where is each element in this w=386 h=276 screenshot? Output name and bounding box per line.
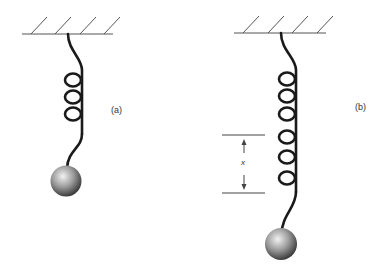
displacement-label: x: [241, 158, 245, 167]
spring-a: [65, 34, 82, 168]
panel-label-a: (a): [111, 105, 122, 115]
panel-label-b: (b): [355, 102, 366, 112]
mass-a: [51, 166, 82, 197]
ceiling-a: [22, 17, 120, 34]
mass-b: [265, 228, 297, 260]
spring-mass-diagram: [0, 0, 386, 276]
spring-b: [279, 33, 296, 236]
ceiling-b: [234, 16, 333, 33]
